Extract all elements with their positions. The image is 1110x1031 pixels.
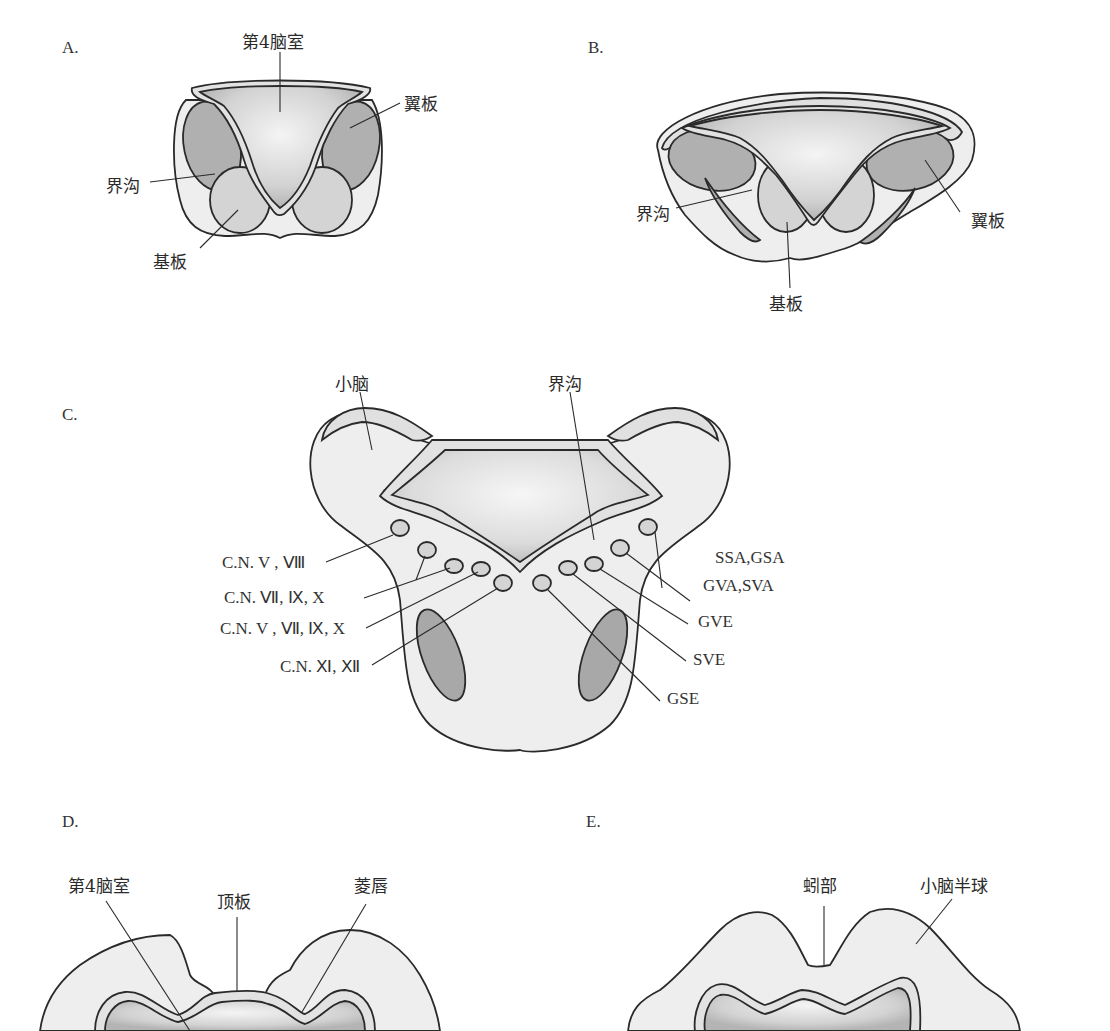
label-c-cn-vii-ix-x: C.N. Ⅶ, Ⅸ, X — [224, 587, 325, 608]
label-b-basal-plate: 基板 — [769, 290, 803, 315]
panel-b-diagram — [657, 93, 974, 262]
label-b-sulcus-limitans: 界沟 — [636, 200, 670, 225]
label-c-sulcus-limitans: 界沟 — [548, 370, 582, 395]
label-c-gse: GSE — [667, 689, 699, 709]
label-c-gva-sva: GVA,SVA — [703, 576, 774, 596]
label-a-fourth-ventricle: 第4脑室 — [242, 28, 304, 53]
label-c-ssa-gsa: SSA,GSA — [715, 548, 784, 568]
label-c-cn-v-viii: C.N. V , Ⅷ — [222, 552, 305, 573]
label-c-cn-v-vii-ix-x: C.N. V , Ⅶ, Ⅸ, X — [220, 618, 345, 639]
label-e-cerebellar-hemisphere: 小脑半球 — [920, 872, 988, 897]
label-d-roof-plate: 顶板 — [217, 888, 251, 913]
label-a-sulcus-limitans: 界沟 — [106, 172, 140, 197]
label-a-basal-plate: 基板 — [153, 248, 187, 273]
label-c-gve: GVE — [698, 612, 733, 632]
label-d-fourth-ventricle: 第4脑室 — [68, 872, 130, 897]
label-c-sve: SVE — [693, 650, 725, 670]
label-b-alar-plate: 翼板 — [971, 207, 1005, 232]
label-e-vermis: 蚓部 — [803, 872, 837, 897]
panel-a-diagram — [174, 81, 388, 239]
panel-d-diagram — [40, 930, 440, 1031]
label-c-cerebellum: 小脑 — [335, 370, 369, 395]
label-d-rhombic-lip: 菱唇 — [354, 872, 388, 897]
label-c-cn-xi-xii: C.N. Ⅺ, Ⅻ — [280, 656, 360, 677]
label-a-alar-plate: 翼板 — [404, 90, 438, 115]
